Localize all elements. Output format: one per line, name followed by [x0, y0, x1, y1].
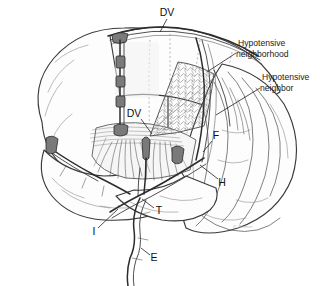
key-label-t-transverse: T: [156, 204, 163, 216]
key-label-e-external: E: [150, 251, 157, 263]
key-label-f-frontal: F: [213, 129, 219, 141]
illustration-canvas: Hypotensive neighborhood Hypotensive nei…: [0, 0, 325, 286]
hypotensive-neighborhood-line1: Hypotensive: [238, 38, 286, 48]
e-external-leader: [141, 248, 150, 255]
key-label-i-internal: I: [93, 225, 96, 237]
brain-venous-drainage-figure: Hypotensive neighborhood Hypotensive nei…: [0, 0, 325, 286]
hypotensive-neighborhood-line2: neighborhood: [236, 49, 289, 59]
artist-signature: P. Ronner: [232, 224, 253, 229]
key-label-dv-deep: DV: [127, 107, 142, 119]
key-label-dv-superior: DV: [160, 6, 175, 18]
key-label-h-hemisphere: H: [218, 176, 226, 188]
hypotensive-neighbor-line1: Hypotensive: [262, 72, 310, 82]
hypotensive-neighbor-line2: neighbor: [260, 83, 294, 93]
